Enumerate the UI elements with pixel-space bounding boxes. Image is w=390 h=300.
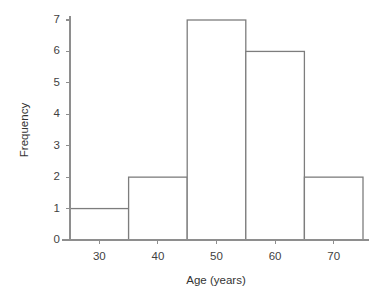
y-tick-label: 7	[38, 14, 60, 26]
y-tick-label: 5	[38, 77, 60, 89]
histogram-chart: 01234567 3040506070 Age (years) Frequenc…	[0, 0, 390, 300]
y-tick-label: 1	[38, 203, 60, 215]
y-tick-label: 4	[38, 109, 60, 121]
x-tick-label: 50	[210, 251, 223, 263]
histogram-bar	[304, 177, 363, 240]
x-tick-label: 30	[93, 251, 106, 263]
x-tick-label: 60	[269, 251, 282, 263]
plot-area: 01234567 3040506070 Age (years) Frequenc…	[0, 0, 390, 300]
y-tick-label: 0	[38, 234, 60, 246]
bars-group	[70, 20, 363, 240]
histogram-bar	[129, 177, 188, 240]
x-tick-label: 70	[327, 251, 340, 263]
x-tick-label: 40	[151, 251, 164, 263]
histogram-bar	[246, 51, 305, 240]
histogram-bar	[187, 20, 246, 240]
y-axis-title: Frequency	[19, 103, 31, 157]
y-tick-label: 3	[38, 140, 60, 152]
x-axis-title: Age (years)	[186, 275, 245, 287]
y-tick-label: 6	[38, 46, 60, 58]
y-tick-label: 2	[38, 171, 60, 183]
histogram-bar	[70, 209, 129, 240]
